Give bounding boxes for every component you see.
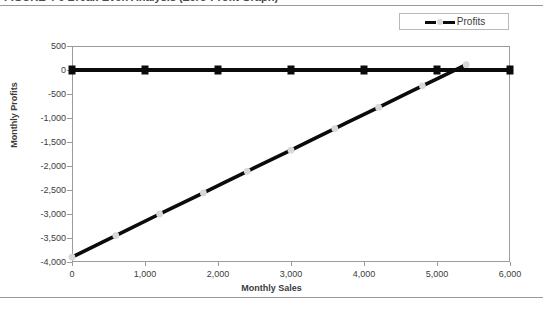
x-tick-label: 1,000 [115, 270, 175, 279]
y-tick-mark [67, 46, 72, 47]
y-tick-mark [67, 190, 72, 191]
x-tick-mark [510, 262, 511, 266]
x-tick-mark [145, 262, 146, 266]
y-tick-mark [67, 142, 72, 143]
y-tick-label: -500 [20, 90, 66, 99]
y-tick-label: -4,000 [20, 258, 66, 267]
y-tick-label: -1,000 [20, 114, 66, 123]
y-tick-mark [67, 214, 72, 215]
y-tick-label: -2,500 [20, 186, 66, 195]
x-tick-mark [218, 262, 219, 266]
y-tick-label: -1,500 [20, 138, 66, 147]
top-divider [0, 5, 543, 6]
plot-area [72, 46, 510, 262]
y-axis-title: Monthly Profits [9, 65, 19, 165]
x-tick-label: 0 [42, 270, 102, 279]
bottom-divider [0, 297, 543, 298]
legend-label-profits: Profits [457, 17, 485, 27]
legend-item-profits: Profits [400, 14, 510, 29]
x-tick-mark [72, 262, 73, 266]
legend-line-icon [425, 17, 455, 27]
y-tick-mark [67, 238, 72, 239]
y-tick-label: -3,000 [20, 210, 66, 219]
y-tick-mark [67, 166, 72, 167]
y-tick-mark [67, 70, 72, 71]
x-tick-label: 5,000 [407, 270, 467, 279]
chart-page: FIGURE 4-9 Break-Even Analysis (Zero-Pro… [0, 0, 543, 310]
y-tick-label: 0 [20, 66, 66, 75]
y-tick-mark [67, 94, 72, 95]
x-tick-label: 6,000 [480, 270, 540, 279]
x-tick-mark [437, 262, 438, 266]
x-tick-mark [291, 262, 292, 266]
y-tick-label: 500 [20, 42, 66, 51]
x-tick-label: 3,000 [261, 270, 321, 279]
chart-legend: Profits [399, 13, 509, 30]
x-axis-title: Monthly Sales [0, 283, 543, 293]
y-tick-mark [67, 118, 72, 119]
y-axis-labels: 500 0 -500 -1,000 -1,500 -2,000 -2,500 -… [16, 0, 66, 310]
y-tick-label: -2,000 [20, 162, 66, 171]
x-tick-label: 2,000 [188, 270, 248, 279]
y-tick-label: -3,500 [20, 234, 66, 243]
x-tick-mark [364, 262, 365, 266]
x-tick-label: 4,000 [334, 270, 394, 279]
